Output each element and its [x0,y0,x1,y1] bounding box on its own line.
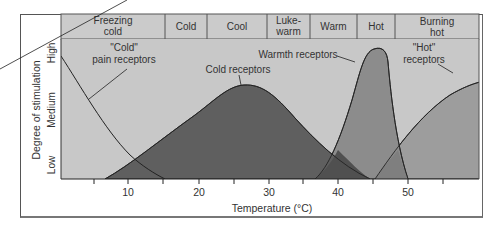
x-tick-30: 30 [263,186,275,198]
band-cold: Cold [176,21,197,32]
cold-pain-label-line1: "Cold" [110,42,138,53]
band-warm: Warm [320,21,346,32]
band-hot: Hot [368,21,384,32]
x-tick-40: 40 [332,186,344,198]
cold-pain-label-line2: pain receptors [92,54,155,65]
y-tick-low: Low [46,155,57,174]
band-cool: Cool [227,21,248,32]
hot-receptors-label-line2: receptors [403,54,445,65]
y-tick-high: High [46,43,57,64]
x-axis-ticks: 10 20 30 40 50 [94,179,443,198]
y-axis-label: Degree of stimulation [30,60,42,159]
warmth-receptors-label: Warmth receptors [258,49,337,60]
cold-receptors-label: Cold receptors [205,64,270,75]
x-tick-10: 10 [122,186,134,198]
band-freezing-cold-line1: Freezing [94,15,133,26]
band-lukewarm-line1: Luke- [276,15,301,26]
band-freezing-cold-line2: cold [104,26,122,37]
band-burning-hot-line1: Burning [420,16,454,27]
band-burning-hot-line2: hot [430,27,444,38]
x-tick-20: 20 [193,186,205,198]
band-lukewarm-line2: warm [275,26,300,37]
hot-receptors-label-line1: "Hot" [413,42,436,53]
temperature-band-header: Freezing cold Cold Cool Luke- warm Warm … [61,14,479,39]
x-axis-label: Temperature (°C) [232,202,313,214]
chart: Freezing cold Cold Cool Luke- warm Warm … [0,0,496,232]
y-tick-medium: Medium [46,92,57,128]
x-tick-50: 50 [402,186,414,198]
